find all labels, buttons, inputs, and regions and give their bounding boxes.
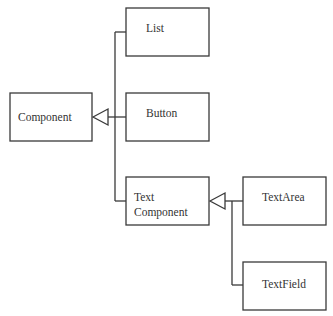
component-label: Component (18, 111, 72, 124)
text-component-label-line-2: Component (134, 206, 188, 219)
component-inheritance-connectors (93, 32, 126, 201)
component-inheritance-arrow-icon (93, 109, 108, 125)
list-box (126, 8, 209, 56)
list-label: List (146, 22, 165, 34)
node-list: List (126, 8, 209, 56)
class-hierarchy-diagram: Component List Button Text Component Tex… (0, 0, 333, 316)
text-component-label-line-1: Text (134, 191, 155, 203)
button-label: Button (146, 107, 178, 119)
node-button: Button (126, 93, 209, 141)
node-text-component: Text Component (126, 177, 209, 225)
text-area-label: TextArea (262, 191, 305, 203)
node-text-area: TextArea (243, 177, 326, 225)
text-component-inheritance-connectors (210, 193, 243, 285)
node-text-field: TextField (243, 262, 326, 310)
text-component-inheritance-arrow-icon (210, 193, 225, 209)
text-field-label: TextField (262, 278, 306, 290)
node-component: Component (10, 93, 92, 141)
